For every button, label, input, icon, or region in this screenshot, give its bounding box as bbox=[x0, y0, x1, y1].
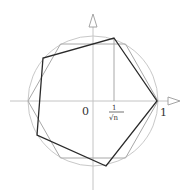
tick-label-numerator: 1 bbox=[112, 104, 116, 112]
polygon-circle-diagram: 0 1 √n 1 bbox=[0, 0, 189, 194]
y-axis-arrow-icon bbox=[89, 14, 97, 27]
x-axis-arrow-icon bbox=[168, 97, 180, 105]
origin-label: 0 bbox=[82, 105, 89, 118]
unit-label: 1 bbox=[160, 106, 167, 119]
tick-label-denominator: √n bbox=[109, 114, 118, 122]
